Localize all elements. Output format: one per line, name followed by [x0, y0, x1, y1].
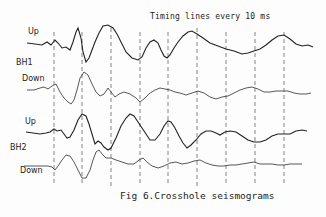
figure-caption: Fig 6.Crosshole seismograms: [120, 190, 274, 201]
seismogram-plot: [0, 0, 326, 217]
bh1-up-trace: [27, 25, 313, 62]
bh2-up-trace: [26, 114, 307, 150]
bh2-down-trace: [24, 150, 302, 178]
seismogram-figure: Timing lines every 10 ms Up BH1 Down Up …: [0, 0, 326, 217]
bh1-down-trace: [27, 72, 311, 104]
